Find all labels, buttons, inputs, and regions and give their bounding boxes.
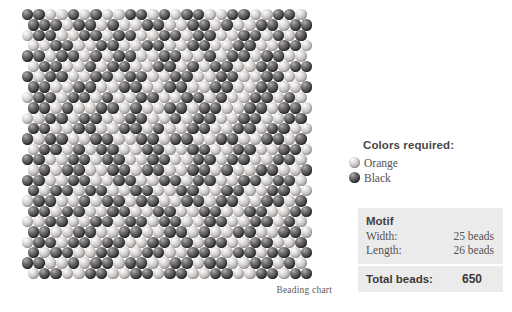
motif-table: Motif Width: 25 beads Length: 26 beads T… (358, 208, 503, 292)
legend-item-orange: Orange (349, 155, 508, 170)
total-beads-label: Total beads: (366, 273, 433, 285)
bead (278, 268, 289, 279)
bead (199, 268, 210, 279)
total-beads-value: 650 (462, 272, 494, 286)
bead (62, 268, 73, 279)
motif-width-label: Width: (366, 229, 397, 243)
bead (244, 268, 255, 279)
motif-length-value: 26 beads (453, 243, 494, 257)
legend-item-black: Black (349, 170, 508, 185)
bead (73, 268, 84, 279)
motif-details-box: Motif Width: 25 beads Length: 26 beads (358, 208, 503, 264)
bead (107, 268, 118, 279)
motif-length-label: Length: (366, 243, 402, 257)
bead (153, 268, 164, 279)
bead (142, 268, 153, 279)
bead (50, 268, 61, 279)
total-beads-box: Total beads: 650 (358, 266, 503, 292)
bead (210, 268, 221, 279)
bead (85, 268, 96, 279)
beading-chart-page: Beading chart Colors required: Orange Bl… (0, 0, 512, 312)
bead (39, 268, 50, 279)
bead (301, 268, 312, 279)
beading-chart-area: Beading chart (22, 9, 332, 281)
bead (130, 268, 141, 279)
chart-caption: Beading chart (276, 285, 332, 295)
bead (256, 268, 267, 279)
motif-row-length: Length: 26 beads (366, 243, 494, 257)
motif-row-width: Width: 25 beads (366, 229, 494, 243)
colors-required-title: Colors required: (363, 139, 508, 151)
motif-heading: Motif (366, 215, 494, 227)
bead-swatch-black-icon (349, 172, 360, 183)
bead-row (28, 268, 313, 280)
bead (187, 268, 198, 279)
bead (233, 268, 244, 279)
colors-required-block: Colors required: Orange Black (358, 139, 508, 185)
bead-grid (22, 9, 332, 281)
bead-swatch-orange-icon (349, 157, 360, 168)
bead (164, 268, 175, 279)
motif-width-value: 25 beads (453, 229, 494, 243)
bead (119, 268, 130, 279)
legend-label-orange: Orange (364, 157, 398, 169)
bead (176, 268, 187, 279)
bead (28, 268, 39, 279)
bead (221, 268, 232, 279)
side-panel: Colors required: Orange Black Motif Widt… (358, 0, 508, 312)
legend-label-black: Black (364, 172, 391, 184)
bead (96, 268, 107, 279)
bead (290, 268, 301, 279)
bead (267, 268, 278, 279)
